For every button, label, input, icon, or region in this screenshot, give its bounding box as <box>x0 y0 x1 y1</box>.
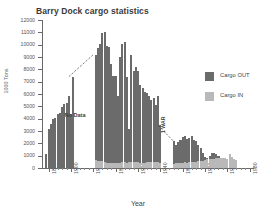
y-tick-label: 4000 <box>23 115 35 121</box>
x-axis-title: Year <box>0 200 276 207</box>
chart-container: Barry Dock cargo statistics 1000 Tons 01… <box>0 0 276 221</box>
x-tick-mark <box>183 168 184 172</box>
x-tick-minor <box>147 168 148 170</box>
x-axis-tick-labels: 1890190019101920193019401950196019701980 <box>42 174 254 200</box>
x-tick-minor <box>129 168 130 170</box>
x-tick-mark <box>205 168 206 172</box>
x-tick-mark <box>250 168 251 172</box>
x-tick-minor <box>80 168 81 170</box>
x-tick-minor <box>84 168 85 170</box>
y-tick-label: 12000 <box>21 17 35 23</box>
y-tick-label: 1000 <box>23 152 35 158</box>
chart-title: Barry Dock cargo statistics <box>36 6 236 16</box>
x-tick-minor <box>223 168 224 170</box>
y-tick-label: 5000 <box>23 103 35 109</box>
annotation-no-data: No Data <box>62 112 88 119</box>
x-tick-minor <box>89 168 90 170</box>
annotation-war: 1 WAR <box>160 117 166 133</box>
y-tick-label: 9000 <box>23 54 35 60</box>
x-tick-minor <box>134 168 135 170</box>
x-tick-mark <box>116 168 117 172</box>
bar <box>235 160 237 168</box>
y-axis-tick-labels: 0100020003000400050006000700080009000100… <box>0 20 41 168</box>
x-tick-mark <box>138 168 139 172</box>
x-tick-minor <box>125 168 126 170</box>
x-tick-minor <box>174 168 175 170</box>
series-cargo-in-bars <box>42 20 252 168</box>
x-tick-minor <box>58 168 59 170</box>
x-tick-minor <box>156 168 157 170</box>
x-tick-minor <box>214 168 215 170</box>
y-tick-label: 2000 <box>23 140 35 146</box>
x-tick-minor <box>111 168 112 170</box>
y-tick-label: 0 <box>32 165 35 171</box>
x-tick-minor <box>236 168 237 170</box>
y-tick-label: 8000 <box>23 66 35 72</box>
y-tick-label: 3000 <box>23 128 35 134</box>
plot-area <box>42 20 252 168</box>
bar <box>159 163 161 168</box>
y-tick-label: 6000 <box>23 91 35 97</box>
x-tick-minor <box>178 168 179 170</box>
y-tick-label: 10000 <box>21 41 35 47</box>
x-tick-label: 1980 <box>252 162 258 174</box>
x-tick-minor <box>241 168 242 170</box>
x-tick-minor <box>62 168 63 170</box>
x-tick-minor <box>218 168 219 170</box>
x-tick-mark <box>71 168 72 172</box>
y-tick-label: 11000 <box>21 29 35 35</box>
x-tick-minor <box>151 168 152 170</box>
y-tick-label: 7000 <box>23 78 35 84</box>
x-tick-minor <box>192 168 193 170</box>
x-tick-minor <box>169 168 170 170</box>
x-tick-minor <box>196 168 197 170</box>
x-tick-minor <box>67 168 68 170</box>
x-tick-mark <box>49 168 50 172</box>
x-tick-minor <box>201 168 202 170</box>
x-tick-minor <box>245 168 246 170</box>
x-tick-minor <box>102 168 103 170</box>
x-tick-minor <box>107 168 108 170</box>
